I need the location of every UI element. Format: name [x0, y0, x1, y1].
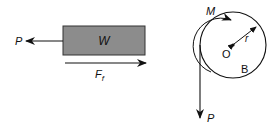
moment-arrow [193, 18, 231, 72]
block-w-label: W [98, 34, 111, 48]
pull-force-label: P [15, 35, 23, 47]
block-figure: W P Ff [15, 26, 146, 83]
radius-label: r [245, 33, 249, 44]
drum-figure: M r O B P [193, 5, 266, 124]
friction-label-sub: f [102, 74, 105, 83]
friction-force-label: Ff [95, 68, 105, 83]
free-body-diagrams: W P Ff M r O B P [0, 0, 279, 129]
center-label: O [222, 48, 231, 60]
moment-label: M [206, 5, 216, 17]
hanging-force-label: P [207, 112, 215, 124]
body-label: B [241, 63, 248, 75]
